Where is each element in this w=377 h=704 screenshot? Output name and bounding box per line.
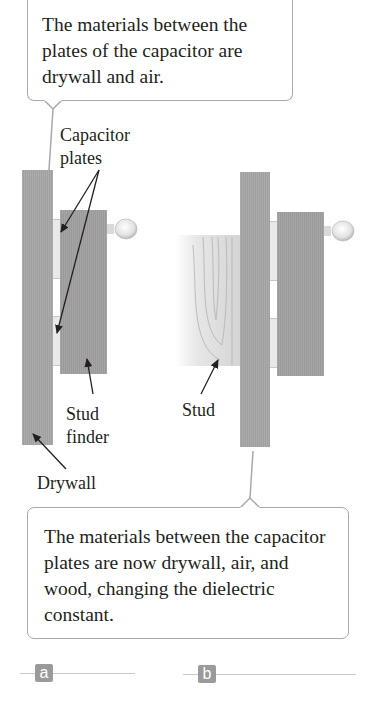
callout-pointer-b-overlay	[0, 0, 377, 704]
callout-pointer-b	[240, 498, 260, 508]
panel-tag-a: a	[35, 664, 53, 682]
panel-tag-b: b	[198, 665, 216, 683]
